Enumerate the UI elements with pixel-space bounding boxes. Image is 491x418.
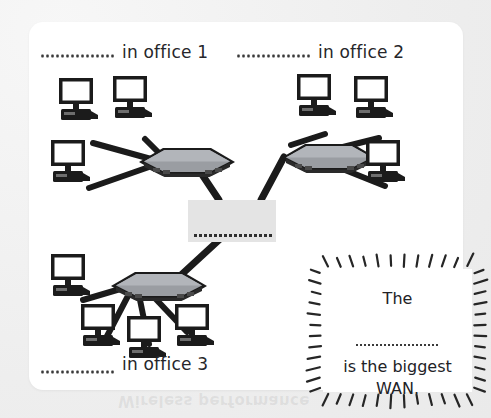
office-1-group [51, 76, 235, 188]
computer-office-3-c [127, 316, 166, 358]
computer-office-1-c [51, 140, 90, 182]
label-office-2: in office 2 [318, 42, 404, 62]
network-diagram: in office 1 in office 2 in office 3 The … [29, 22, 463, 390]
worksheet-card: in office 1 in office 2 in office 3 The … [29, 22, 463, 390]
wan-cloud [188, 200, 276, 242]
computer-office-3-a [51, 254, 90, 296]
computer-office-1-a [59, 78, 98, 120]
computer-office-2-c [366, 140, 405, 182]
computer-office-2-a [297, 74, 336, 116]
starburst-callout: The is the biggest WAN. [301, 253, 491, 408]
switch-office-1 [139, 148, 235, 177]
callout-line-3: WAN. [323, 379, 472, 398]
office-2-group [281, 74, 405, 186]
switch-office-2 [281, 144, 377, 173]
computer-office-3-d [175, 304, 214, 346]
callout-line-1: The [323, 289, 472, 308]
computer-office-1-b [113, 76, 152, 118]
computer-office-3-b [81, 304, 120, 346]
callout-blank[interactable] [355, 343, 440, 347]
callout-body: The is the biggest WAN. [323, 269, 472, 392]
label-office-3: in office 3 [122, 354, 208, 374]
callout-line-2: is the biggest [323, 357, 472, 376]
blank-office-1[interactable] [40, 54, 116, 58]
blank-office-3[interactable] [40, 370, 116, 374]
blank-office-2[interactable] [236, 54, 312, 58]
computer-office-2-b [354, 76, 393, 118]
label-office-1: in office 1 [122, 42, 208, 62]
